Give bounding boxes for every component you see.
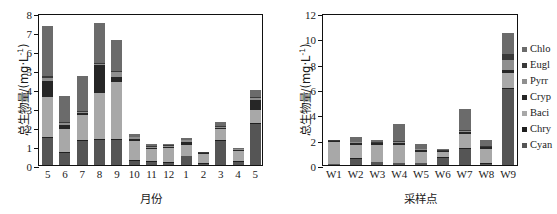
bar-segment-Cyan [215, 141, 226, 165]
x-tick-label: W1 [326, 169, 342, 180]
y-tick [318, 116, 323, 117]
bar-segment-Cyan [437, 158, 449, 165]
figure-stacked-bar-charts: 总生物量/(mg·L-1) 0123456785678910111212345 … [0, 0, 557, 214]
legend-label: Cyan [530, 140, 552, 151]
bar-segment-Baci [459, 134, 471, 148]
bar-segment-Cyan [415, 163, 427, 165]
legend-swatch-icon [522, 47, 527, 52]
bar-W4 [393, 124, 405, 165]
bar-segment-Baci [328, 142, 340, 164]
y-tick [34, 167, 39, 168]
bar-segment-Cyan [59, 153, 70, 165]
bar-segment-Cyan [42, 138, 53, 165]
bar-segment-Baci [415, 152, 427, 163]
bar-segment-Cyan [77, 141, 88, 165]
bar-segment-Chlo [502, 33, 514, 54]
bar-segment-Chlo [42, 26, 53, 75]
y-tick [34, 72, 39, 73]
plot-area-right: 024681012W1W2W3W4W5W6W7W8W9 [322, 14, 518, 166]
x-tick-label: 2 [201, 169, 207, 180]
bar-segment-Baci [59, 129, 70, 152]
bar-1 [181, 137, 192, 165]
x-tick-label: W8 [478, 169, 494, 180]
y-tick [318, 91, 323, 92]
x-tick-label: W3 [369, 169, 385, 180]
bar-segment-Cyan [111, 140, 122, 165]
y-tick-label: 0 [27, 162, 33, 173]
bar-segment-Baci [233, 151, 244, 161]
bar-segment-Baci [77, 115, 88, 141]
x-tick-label: W2 [348, 169, 364, 180]
bar-segment-Chlo [459, 109, 471, 129]
bar-segment-Baci [393, 145, 405, 163]
y-tick [34, 53, 39, 54]
bar-6 [59, 96, 70, 165]
bar-segment-Baci [215, 129, 226, 140]
bar-segment-Baci [94, 93, 105, 140]
y-tick-label: 2 [27, 124, 33, 135]
y-tick-label: 4 [27, 86, 33, 97]
bar-segment-Cyan [250, 124, 261, 165]
bar-segment-Baci [146, 149, 157, 160]
y-tick [318, 167, 323, 168]
bar-segment-Baci [198, 154, 209, 163]
bar-segment-Baci [480, 149, 492, 164]
y-tick [34, 148, 39, 149]
legend-label: Cryp [530, 92, 551, 103]
x-tick-label: 5 [45, 169, 51, 180]
bar-10 [129, 134, 140, 165]
x-tick-label: 4 [235, 169, 241, 180]
y-tick-label: 4 [311, 111, 317, 122]
bar-segment-Baci [181, 145, 192, 155]
y-tick [318, 66, 323, 67]
bar-8 [94, 23, 105, 166]
bar-W9 [502, 33, 514, 165]
bar-W8 [480, 140, 492, 165]
y-tick-label: 3 [27, 105, 33, 116]
x-tick-label: 3 [218, 169, 224, 180]
legend-item-pyrr: Pyrr [522, 76, 552, 87]
x-tick-label: W7 [457, 169, 473, 180]
bar-W6 [437, 149, 449, 165]
bar-segment-Cyan [459, 149, 471, 165]
x-tick-label: 8 [97, 169, 103, 180]
bar-3 [215, 122, 226, 165]
bar-segment-Chlo [94, 23, 105, 64]
bar-segment-Baci [371, 145, 383, 162]
bar-segment-Chlo [111, 40, 122, 71]
y-tick-label: 5 [27, 67, 33, 78]
legend-item-chlo: Chlo [522, 44, 552, 55]
bar-segment-Cyan [350, 159, 362, 165]
y-tick-label: 0 [311, 162, 317, 173]
bar-segment-Cyan [163, 163, 174, 165]
bar-segment-Baci [502, 73, 514, 88]
bar-W2 [350, 137, 362, 166]
legend-label: Baci [530, 108, 549, 119]
x-tick-label: 12 [163, 169, 174, 180]
y-tick-label: 10 [305, 35, 316, 46]
bar-segment-Cyan [198, 164, 209, 165]
bar-segment-Chlo [393, 124, 405, 142]
x-tick-label: 5 [253, 169, 259, 180]
legend-label: Chry [530, 124, 551, 135]
y-tick [318, 15, 323, 16]
bar-segment-Cyan [393, 163, 405, 165]
bar-segment-Cyan [502, 89, 514, 165]
x-tick-label: 1 [183, 169, 189, 180]
x-tick-label: 9 [114, 169, 120, 180]
bar-segment-Pyrr [502, 60, 514, 70]
y-tick-label: 1 [27, 143, 33, 154]
bar-segment-Cryp [94, 65, 105, 93]
y-tick-label: 12 [305, 10, 316, 21]
legend-swatch-icon [522, 95, 527, 100]
legend: ChloEuglPyrrCrypBaciChryCyan [522, 44, 552, 151]
bar-segment-Cyan [480, 164, 492, 165]
legend-swatch-icon [522, 127, 527, 132]
bar-4 [233, 148, 244, 165]
bar-segment-Chlo [250, 90, 261, 97]
legend-item-chry: Chry [522, 124, 552, 135]
x-tick-label: W9 [500, 169, 516, 180]
bar-segment-Cyan [328, 164, 340, 165]
plot-area-left: 0123456785678910111212345 [38, 14, 263, 166]
bar-segment-Chlo [59, 96, 70, 123]
